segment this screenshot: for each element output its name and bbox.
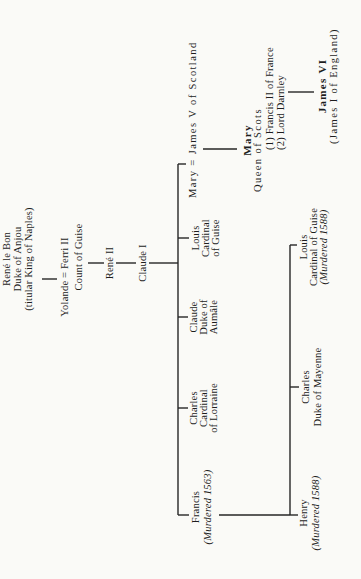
node-mary-queen-of-scots-line-2: Queen of Scots xyxy=(253,108,264,192)
node-james-vi-line-2: (James I of England) xyxy=(329,28,340,144)
family-tree-page: René le Bon Duke of Anjou (titular King … xyxy=(0,0,361,579)
node-charles-mayenne-line-1: Charles xyxy=(301,370,312,403)
tree-connectors xyxy=(0,0,361,579)
node-rene-le-bon-line-2: Duke of Anjou xyxy=(13,226,24,291)
node-rene-ii: René II xyxy=(105,247,116,280)
node-louis-cardinal-guise-line-3: of Guise xyxy=(211,219,222,256)
node-charles-mayenne-line-2: Duke of Mayenne xyxy=(313,348,324,427)
node-yolande-line-2: Count of Guise xyxy=(74,224,85,291)
node-james-vi-line-1: James VI xyxy=(317,59,328,114)
node-francis-line-2: (Murdered 1563) xyxy=(203,470,214,545)
node-mary-queen-of-scots-line-3: (1) Francis II of France xyxy=(265,47,276,150)
node-claude-i: Claude I xyxy=(138,244,149,281)
node-francis-line-1: Francis xyxy=(191,491,202,523)
node-henry-line-1: Henry xyxy=(299,499,310,526)
node-mary-james-v: Mary = James V of Scotland xyxy=(188,41,199,198)
node-louis-guise-murdered-line-3: (Murdered 1588) xyxy=(319,210,330,285)
node-henry-line-2: (Murdered 1588) xyxy=(311,476,322,551)
node-mary-queen-of-scots-line-4: (2) Lord Darnley xyxy=(276,75,287,150)
node-charles-lorraine-line-3: of Lorraine xyxy=(209,383,220,433)
node-rene-le-bon-line-1: René le Bon xyxy=(2,232,13,286)
rotated-tree-canvas: René le Bon Duke of Anjou (titular King … xyxy=(0,0,361,579)
node-yolande-line-1: Yolande = Ferri II xyxy=(60,237,71,316)
node-rene-le-bon-line-3: (titular King of Naples) xyxy=(24,207,35,311)
node-claude-aumale-line-3: Aumâle xyxy=(209,300,220,334)
